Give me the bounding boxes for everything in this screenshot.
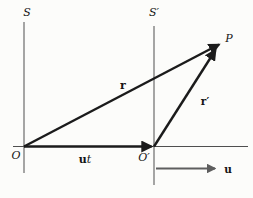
- frame-s-label: S: [23, 6, 31, 19]
- vector-ut-label-t: t: [87, 153, 92, 166]
- vector-ut-label: ut: [79, 153, 92, 166]
- diagram-canvas: S S′ P O O′ r r′ ut u: [0, 0, 253, 198]
- vector-r-label: r: [120, 79, 126, 92]
- point-p-label: P: [224, 32, 233, 45]
- vector-ut-label-u: u: [79, 153, 87, 166]
- vector-r-prime-label: r′: [201, 95, 210, 107]
- frame-s-prime-label: S′: [149, 6, 160, 19]
- velocity-u-label: u: [224, 163, 232, 175]
- origin-o-label: O: [11, 149, 20, 162]
- figure-background: [0, 0, 253, 198]
- origin-o-prime-label: O′: [138, 151, 150, 164]
- frames-diagram: S S′ P O O′ r r′ ut u: [0, 0, 253, 198]
